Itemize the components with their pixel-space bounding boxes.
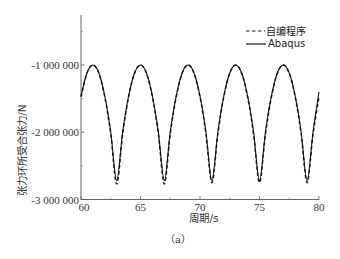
x-tick-label: 60 [79, 201, 91, 213]
plot-series [81, 65, 319, 184]
y-tick-label: -2 000 000 [31, 126, 79, 138]
legend: 自编程序 Abaqus [246, 25, 306, 49]
y-tick-label: -1 000 000 [31, 59, 79, 71]
legend-label-self-program: 自编程序 [266, 25, 306, 37]
y-tick-label: -3 000 000 [31, 194, 79, 206]
y-axis-label: 张力环所受合张力/N [16, 104, 28, 195]
series-abaqus-line [81, 65, 319, 181]
x-ticks: 6065707580 [79, 196, 326, 213]
x-axis-label: 周期/s [189, 212, 218, 224]
figure-caption: （a） [165, 234, 191, 245]
legend-label-abaqus: Abaqus [268, 38, 305, 49]
x-tick-label: 80 [314, 201, 326, 213]
legend-item-self-program: 自编程序 [246, 25, 306, 37]
legend-item-abaqus: Abaqus [246, 38, 305, 49]
x-tick-label: 65 [135, 201, 147, 213]
line-chart: 6065707580 -1 000 000-2 000 000-3 000 00… [0, 0, 340, 259]
y-ticks: -1 000 000-2 000 000-3 000 000 [31, 31, 84, 205]
x-tick-label: 75 [254, 201, 266, 213]
series-self-program-line [81, 65, 319, 184]
